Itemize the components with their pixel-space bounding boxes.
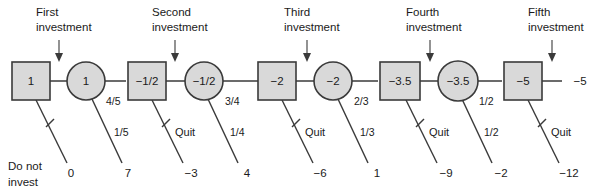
node-value-decision-1: 1 [28, 75, 34, 87]
quit-label-2: Quit [305, 126, 325, 138]
node-value-chance-4: −3.5 [447, 75, 470, 87]
quit-label-4: Quit [551, 126, 571, 138]
stage-arrow-head-3 [303, 53, 311, 62]
stage-label-4-line1: Fourth [406, 6, 439, 18]
upper-prob-4: 1/2 [479, 95, 494, 107]
stage-label-2-line2: investment [152, 21, 208, 33]
stage-label-5-line1: Fifth [528, 6, 550, 18]
final-value-label: −5 [573, 75, 586, 87]
node-value-decision-3: −2 [270, 75, 283, 87]
node-value-chance-3: −2 [326, 75, 339, 87]
do-not-invest-group: Do not invest [8, 160, 43, 188]
lower-prob-4: 1/2 [484, 126, 499, 138]
stage-arrow-head-2 [171, 53, 179, 62]
stage-arrows-group [55, 40, 556, 62]
terminal-payoff-2: 7 [125, 167, 131, 179]
terminal-payoff-5: −6 [313, 167, 326, 179]
terminal-payoffs-group: 0 7 −3 4 −6 1 −9 −2 −12 [68, 167, 579, 179]
node-value-decision-5: −5 [516, 75, 529, 87]
terminal-payoff-8: −2 [494, 167, 507, 179]
terminal-payoff-4: 4 [244, 167, 251, 179]
stage-label-1-line1: First [36, 6, 59, 18]
terminal-payoff-1: 0 [68, 167, 74, 179]
terminal-payoff-3: −3 [184, 167, 197, 179]
terminal-payoff-6: 1 [374, 167, 380, 179]
terminal-payoff-9: −12 [559, 167, 579, 179]
stage-arrow-head-5 [548, 53, 556, 62]
node-value-decision-4: −3.5 [389, 75, 412, 87]
quit-label-3: Quit [429, 126, 449, 138]
upper-prob-3: 2/3 [354, 95, 369, 107]
lower-prob-1: 1/5 [114, 126, 129, 138]
stage-arrow-head-1 [55, 53, 63, 62]
decision-tree-svg: 1 1 −1/2 −1/2 −2 −2 −3.5 −3.5 −5 First [0, 0, 597, 195]
stage-arrow-head-4 [426, 53, 434, 62]
upper-prob-1: 4/5 [106, 95, 121, 107]
stage-label-3-line2: investment [284, 21, 340, 33]
decision-tree-figure: 1 1 −1/2 −1/2 −2 −2 −3.5 −3.5 −5 First [0, 0, 597, 195]
stage-label-3-line1: Third [284, 6, 310, 18]
stage-label-1-line2: investment [36, 21, 92, 33]
branch-quit-0 [36, 100, 67, 163]
stage-label-4-line2: investment [406, 21, 462, 33]
do-not-invest-line2: invest [8, 176, 39, 188]
stage-label-5-line2: investment [528, 21, 584, 33]
lower-prob-2: 1/4 [230, 126, 245, 138]
quit-label-1: Quit [175, 126, 195, 138]
upper-prob-2: 3/4 [225, 95, 240, 107]
stage-labels-group: First investment Second investment Third… [36, 6, 584, 33]
node-value-decision-2: −1/2 [136, 75, 159, 87]
terminal-payoff-7: −9 [439, 167, 452, 179]
stage-label-2-line1: Second [152, 6, 191, 18]
lower-prob-3: 1/3 [360, 126, 375, 138]
do-not-invest-line1: Do not [8, 160, 43, 172]
node-value-chance-2: −1/2 [193, 75, 216, 87]
node-value-chance-1: 1 [83, 75, 89, 87]
